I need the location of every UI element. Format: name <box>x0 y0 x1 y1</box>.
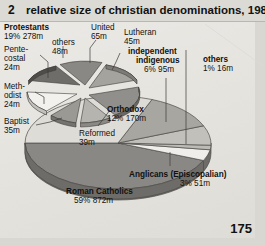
label-others-small-name: others <box>52 38 75 47</box>
label-orthodox-value: 12% 170m <box>107 114 146 123</box>
label-protestants-title: Protestants <box>4 23 49 32</box>
label-roman-catholics-name: Roman Catholics <box>66 187 133 196</box>
label-others-small-value: 48m <box>52 47 68 56</box>
label-anglicans-value: 3% 51m <box>180 179 210 188</box>
label-protestants-value: 19% 278m <box>4 32 43 41</box>
label-independent-name-2: indigenous <box>136 56 180 65</box>
label-lutheran-value: 45m <box>124 37 140 46</box>
page-canvas: 2 relative size of christian denominatio… <box>0 0 265 246</box>
label-baptist-value: 35m <box>4 126 20 135</box>
label-reformed-name: Reformed <box>79 129 115 138</box>
label-pentecostal-value: 24m <box>4 63 20 72</box>
label-pentecostal-name-2: costal <box>4 54 25 63</box>
label-others-main-value: 1% 16m <box>203 64 233 73</box>
page-number: 175 <box>230 221 252 236</box>
label-anglicans-name: Anglicans (Episcopalian) <box>129 170 226 179</box>
label-lutheran-name: Lutheran <box>124 28 156 37</box>
label-independent-value: 6% 95m <box>144 65 174 74</box>
label-methodist-name-1: Meth- <box>4 82 25 91</box>
label-roman-catholics-value: 59% 872m <box>74 196 113 205</box>
label-methodist-name-2: odist <box>4 91 21 100</box>
label-orthodox-name: Orthodox <box>107 105 144 114</box>
label-reformed-value: 39m <box>79 138 95 147</box>
label-baptist-name: Baptist <box>4 117 29 126</box>
label-pentecostal-name-1: Pente- <box>4 45 28 54</box>
label-united-value: 65m <box>91 32 107 41</box>
label-united-name: United <box>91 23 115 32</box>
label-others-main-name: others <box>203 55 228 64</box>
label-independent-name-1: independent <box>128 47 177 56</box>
label-methodist-value: 24m <box>4 100 20 109</box>
